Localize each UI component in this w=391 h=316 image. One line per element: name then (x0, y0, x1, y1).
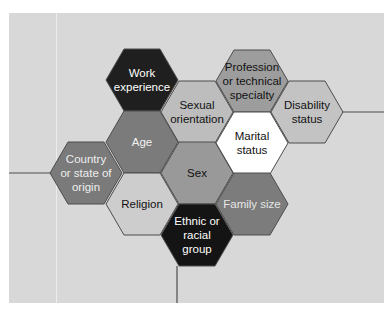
hexagon-label: Disability (284, 99, 330, 111)
hexagon-label: status (292, 113, 323, 125)
hexagon-label: Marital (235, 130, 270, 142)
hexagon-label: specialty (230, 89, 275, 101)
hexagon-label: Profession (225, 61, 279, 73)
hexagon-label: Sexual (179, 99, 214, 111)
hexagon-diagram: WorkexperienceProfessionor technicalspec… (0, 0, 391, 316)
hexagon-label: status (237, 144, 268, 156)
hexagon-label: group (182, 243, 211, 255)
hexagon-label: Age (132, 136, 152, 148)
hexagon-label: or state of (60, 167, 112, 179)
hexagon-label: Work (129, 67, 156, 79)
hexagon-label: origin (72, 181, 100, 193)
hexagon-label: Sex (187, 167, 207, 179)
hexagon-label: Family size (223, 198, 281, 210)
hexagon-label: or technical (223, 75, 282, 87)
hexagon-group: WorkexperienceProfessionor technicalspec… (50, 49, 343, 266)
hexagon-label: Ethnic or (174, 215, 220, 227)
hexagon-label: Religion (121, 198, 163, 210)
hexagon-label: Country (66, 153, 107, 165)
hexagon-label: orientation (170, 113, 224, 125)
hexagon-label: experience (114, 81, 170, 93)
hexagon-label: racial (183, 229, 210, 241)
